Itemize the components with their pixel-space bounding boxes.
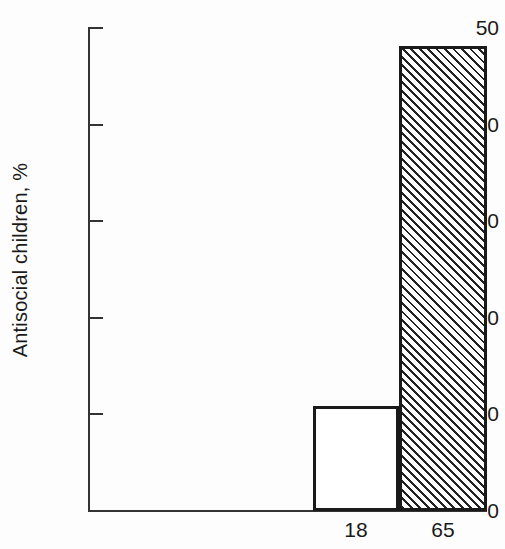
- bar-65: [399, 46, 487, 511]
- x-tick-label: 65: [431, 518, 454, 542]
- x-tick-label: 18: [344, 518, 367, 542]
- bar-18: [313, 406, 399, 511]
- bar-chart-figure: Antisocial children, % 01020304050 1865: [0, 0, 505, 549]
- plot-area: [0, 0, 505, 511]
